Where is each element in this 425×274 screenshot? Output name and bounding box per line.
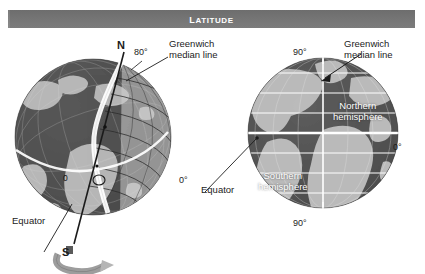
right-globe-sphere	[243, 58, 403, 224]
right-zero-degree-label: 0°	[393, 142, 402, 152]
left-equator-label: Equator	[12, 216, 45, 227]
left-globe-illustration	[0, 34, 215, 274]
southern-hemisphere-label: Southern hemisphere	[258, 171, 308, 193]
figure-latitude: Latitude	[0, 0, 425, 274]
right-globe-illustration	[215, 34, 425, 274]
right-top-90-label: 90°	[293, 47, 307, 57]
right-bottom-90-label: 90°	[293, 218, 307, 228]
left-80-leader-line	[131, 61, 142, 70]
northern-hemisphere-label: Northern hemisphere	[333, 101, 383, 123]
left-north-pole-label: N	[117, 39, 125, 52]
left-origin-zero-label: 0	[63, 174, 68, 184]
left-greenwich-label: Greenwich median line	[169, 39, 218, 61]
left-latitude-80-label: 80°	[134, 47, 148, 57]
left-south-pole-label: S	[62, 246, 69, 259]
left-equator-leader-line	[44, 204, 72, 252]
right-greenwich-label: Greenwich median line	[344, 39, 393, 61]
right-equator-label: Equator	[201, 185, 234, 196]
figure-title-banner: Latitude	[8, 10, 415, 28]
page-title: Latitude	[189, 12, 233, 26]
left-zero-degree-label: 0°	[179, 175, 188, 185]
